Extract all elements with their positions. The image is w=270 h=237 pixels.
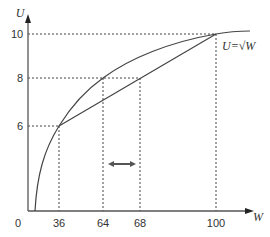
double-arrow-icon: [108, 161, 136, 167]
y-tick-10: 10: [11, 28, 23, 40]
origin-label: 0: [15, 217, 21, 229]
axes: [28, 20, 248, 211]
utility-chart: 0 36 64 68 100 6 8 10 U W U=√W: [0, 0, 270, 237]
y-tick-6: 6: [17, 120, 23, 132]
x-axis-label: W: [253, 210, 264, 224]
y-axis-label: U: [16, 6, 26, 20]
x-tick-64: 64: [97, 217, 109, 229]
x-tick-100: 100: [207, 217, 225, 229]
chord-line: [59, 34, 216, 126]
y-axis-arrow-icon: [25, 14, 31, 23]
reference-lines: [28, 34, 216, 211]
y-tick-8: 8: [17, 72, 23, 84]
curve-label: U=√W: [222, 39, 256, 53]
x-tick-36: 36: [53, 217, 65, 229]
x-tick-68: 68: [134, 217, 146, 229]
